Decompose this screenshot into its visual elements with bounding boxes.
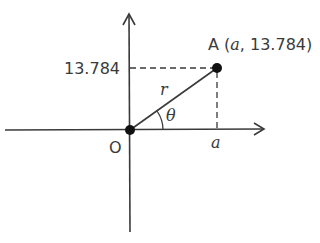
origin-label: O [109, 139, 122, 157]
y-axis [129, 14, 130, 232]
origin-point [125, 125, 135, 135]
y-value-label: 13.784 [64, 60, 120, 78]
x-value-label: a [211, 134, 221, 152]
point-a [212, 63, 222, 73]
point-a-label: A (a, 13.784) [208, 36, 312, 54]
angle-label: θ [166, 107, 176, 125]
angle-arc [157, 111, 163, 130]
radius-label: r [160, 81, 168, 99]
